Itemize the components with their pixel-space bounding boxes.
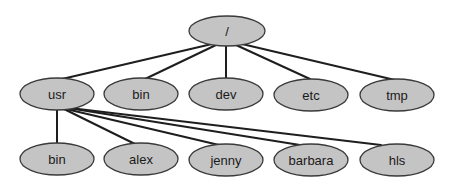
node-barbara: barbara [274,144,348,176]
node-dev: dev [189,78,263,110]
edge-root-bin [145,45,216,79]
node-label: bin [48,152,65,167]
node-label: bin [132,87,149,102]
node-label: hls [389,153,406,168]
node-hls: hls [360,144,434,176]
node-bin: bin [104,78,178,110]
node-label: etc [302,88,320,103]
edge-root-etc [236,45,310,79]
node-label: usr [48,87,67,102]
node-label: dev [216,87,237,102]
edges-usr [57,108,381,145]
node-usr: usr [20,78,94,110]
node-jenny: jenny [189,144,263,176]
node-label: / [225,24,229,39]
node-label: barbara [289,153,335,168]
node-tmp: tmp [360,79,434,111]
node-alex: alex [104,143,178,175]
edge-usr-barbara [68,108,300,145]
node-etc: etc [274,79,348,111]
node-label: tmp [386,88,408,103]
edges-root [62,44,395,80]
directory-tree-diagram: / usr bin dev etc tmp bin alex jenny bar… [0,0,454,194]
edge-usr-hls [70,108,381,145]
node-usr-bin: bin [20,143,94,175]
node-label: alex [129,152,153,167]
edge-usr-jenny [66,109,219,145]
edge-root-tmp [242,44,395,80]
node-root: / [189,16,265,46]
node-label: jenny [209,153,242,168]
edge-root-usr [62,44,212,79]
